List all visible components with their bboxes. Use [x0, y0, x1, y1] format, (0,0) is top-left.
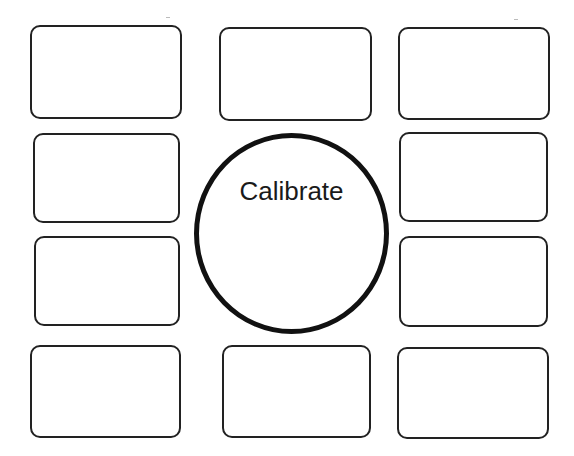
empty-box-mid-upper-right: [399, 132, 548, 222]
empty-box-top-left: [30, 25, 182, 119]
scan-mark: [166, 17, 170, 18]
empty-box-bottom-right: [397, 347, 549, 439]
calibrate-circle: Calibrate: [194, 133, 389, 334]
empty-box-mid-lower-left: [34, 236, 180, 326]
calibrate-label: Calibrate: [199, 176, 384, 207]
empty-box-bottom-left: [30, 345, 181, 438]
empty-box-bottom-middle: [222, 345, 371, 438]
empty-box-mid-lower-right: [399, 236, 548, 327]
empty-box-top-middle: [219, 27, 372, 121]
scan-mark: [514, 19, 518, 20]
empty-box-top-right: [398, 27, 550, 120]
empty-box-mid-upper-left: [33, 133, 180, 223]
